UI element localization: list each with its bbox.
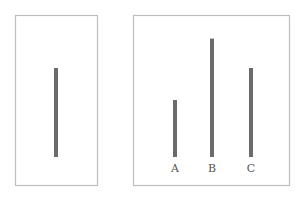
label-b: B [208,162,216,175]
label-c: C [247,162,255,175]
reference-line [54,68,58,157]
comparison-line-b [210,39,214,157]
asch-line-cards: A B C [0,0,300,199]
comparison-line-c [249,68,253,157]
label-a: A [170,162,180,175]
comparison-line-a [173,100,177,157]
